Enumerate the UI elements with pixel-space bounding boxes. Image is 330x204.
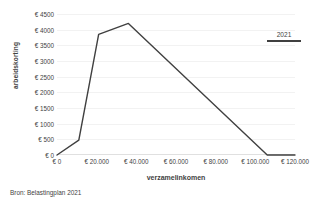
y-tick-label: € 3500: [18, 42, 54, 49]
x-tick-label: € 20.000: [84, 158, 109, 165]
y-tick-label: € 1500: [18, 105, 54, 112]
y-tick-label: € 0: [18, 152, 54, 159]
x-tick-label: € 100.000: [241, 158, 269, 165]
y-tick-label: € 2000: [18, 89, 54, 96]
y-tick-label: € 3000: [18, 58, 54, 65]
y-tick-label: € 500: [18, 136, 54, 143]
legend-item-2021-swatch: [267, 40, 301, 42]
source-caption: Bron: Belastingplan 2021: [10, 189, 81, 196]
series-path-2021: [57, 23, 295, 155]
plot-area: [57, 14, 295, 155]
x-tick-label: € 120.000: [281, 158, 309, 165]
y-tick-label: € 1000: [18, 120, 54, 127]
y-tick-label: € 4500: [18, 11, 54, 18]
series-line-2021: [57, 14, 295, 155]
x-tick-label: € 80.000: [203, 158, 228, 165]
x-tick-label: € 0: [53, 158, 62, 165]
y-tick-label: € 2500: [18, 73, 54, 80]
chart-container: arbeidskorting € 0€ 500€ 1000€ 1500€ 200…: [0, 0, 330, 204]
legend-item-2021-label: 2021: [262, 30, 306, 39]
y-axis-tick-labels: € 0€ 500€ 1000€ 1500€ 2000€ 2500€ 3000€ …: [18, 0, 54, 204]
x-axis-title: verzamelinkomen: [57, 174, 295, 181]
x-tick-label: € 40.000: [124, 158, 149, 165]
legend: 2021: [262, 30, 306, 42]
x-tick-label: € 60.000: [164, 158, 189, 165]
y-tick-label: € 4000: [18, 26, 54, 33]
